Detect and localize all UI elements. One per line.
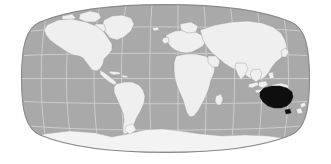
highlight-tasmania[interactable] [285, 109, 291, 114]
world-map-svg [0, 0, 331, 164]
locator-map-figure: World locator map Australia [0, 0, 331, 164]
